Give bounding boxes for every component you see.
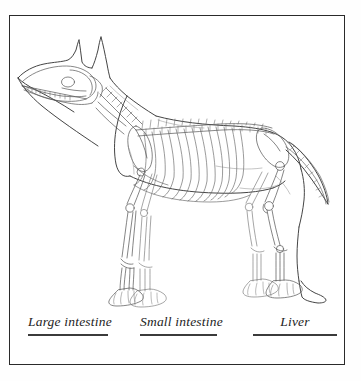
answer-small-intestine[interactable]: Small intestine <box>140 312 217 352</box>
answer-label-liver: Liver <box>253 312 337 331</box>
contour-lines <box>110 86 290 194</box>
answer-label-large-intestine: Large intestine <box>28 312 108 331</box>
answer-liver[interactable]: Liver <box>253 312 337 352</box>
answer-rule-large-intestine[interactable] <box>28 334 108 336</box>
answer-label-small-intestine: Small intestine <box>140 312 217 331</box>
answer-large-intestine[interactable]: Large intestine <box>28 312 108 352</box>
dog-skeleton-illustration <box>10 16 346 312</box>
answer-rule-small-intestine[interactable] <box>140 334 217 336</box>
answer-rule-liver[interactable] <box>253 334 337 336</box>
far-forelimb <box>130 174 166 307</box>
worksheet-frame: Large intestine Small intestine Liver <box>9 15 345 365</box>
worksheet-page: Large intestine Small intestine Liver <box>0 0 361 381</box>
answer-lines-row: Large intestine Small intestine Liver <box>10 312 346 364</box>
pelvis-and-hindlimb <box>256 128 302 298</box>
